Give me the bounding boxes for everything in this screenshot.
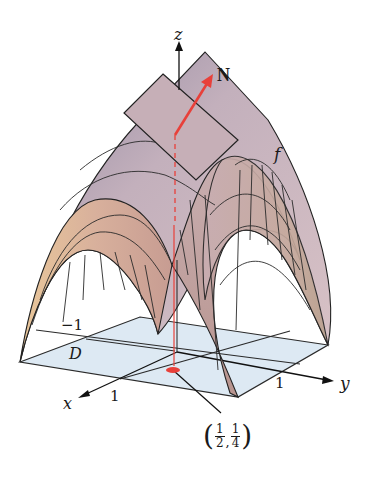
- point-marker: [166, 367, 180, 373]
- point-separator: ,: [226, 435, 230, 448]
- point-x-fraction: 1 2: [215, 423, 225, 449]
- tick-neg1-label: −1: [61, 318, 83, 333]
- paren-open: (: [203, 422, 214, 450]
- point-x-denominator: 2: [216, 437, 224, 450]
- domain-label: D: [69, 346, 82, 362]
- point-x-numerator: 1: [215, 423, 225, 437]
- z-axis-label: z: [174, 27, 182, 43]
- x-axis-label: x: [63, 396, 72, 412]
- surface-diagram: [0, 0, 372, 483]
- tick-x1-label: 1: [110, 389, 120, 404]
- tick-y1-label: 1: [275, 376, 285, 391]
- surface-label: f: [274, 146, 280, 163]
- point-y-numerator: 1: [231, 423, 241, 437]
- y-axis-label: y: [340, 375, 350, 392]
- paren-close: ): [241, 422, 252, 450]
- point-y-denominator: 4: [232, 437, 240, 450]
- point-coordinate-label: ( 1 2 , 1 4 ): [203, 422, 252, 450]
- point-y-fraction: 1 4: [231, 423, 241, 449]
- normal-vector-label: N: [217, 66, 230, 84]
